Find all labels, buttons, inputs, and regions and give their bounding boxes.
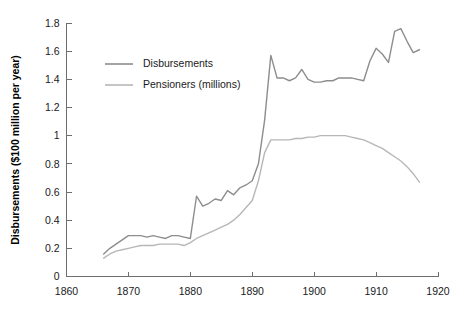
x-tick-label: 1890	[241, 285, 265, 297]
y-tick-label: 1.4	[45, 73, 60, 85]
y-tick-label: 0.6	[45, 186, 60, 198]
y-tick-label: 0.4	[45, 214, 60, 226]
x-tick-label: 1920	[426, 285, 450, 297]
legend-label-1: Disbursements	[143, 57, 213, 69]
y-tick-label: 1.6	[45, 45, 60, 57]
x-tick-label: 1870	[117, 285, 141, 297]
y-tick-label: 1	[54, 129, 60, 141]
x-tick-label: 1880	[179, 285, 203, 297]
y-tick-label: 0	[54, 270, 60, 282]
y-tick-label: 0.8	[45, 158, 60, 170]
chart-legend: DisbursementsPensioners (millions)	[105, 57, 240, 90]
line-chart-plot: Disbursements ($100 million per year) 00…	[0, 0, 474, 311]
x-tick-label: 1860	[55, 285, 79, 297]
y-tick-label: 1.2	[45, 101, 60, 113]
legend-label-2: Pensioners (millions)	[143, 78, 240, 90]
y-tick-label: 0.2	[45, 242, 60, 254]
y-tick-label: 1.8	[45, 17, 60, 29]
y-axis-title: Disbursements ($100 million per year)	[9, 55, 21, 245]
x-tick-label: 1910	[364, 285, 388, 297]
x-tick-label: 1900	[302, 285, 326, 297]
y-axis-ticks: 00.20.40.60.811.21.41.61.8	[45, 17, 72, 283]
axis-lines	[67, 23, 439, 277]
chart-container: Disbursements ($100 million per year) 00…	[0, 0, 474, 311]
x-axis-ticks: 1860187018801890190019101920	[55, 272, 450, 297]
series-line-pensioners-millions	[104, 136, 420, 259]
